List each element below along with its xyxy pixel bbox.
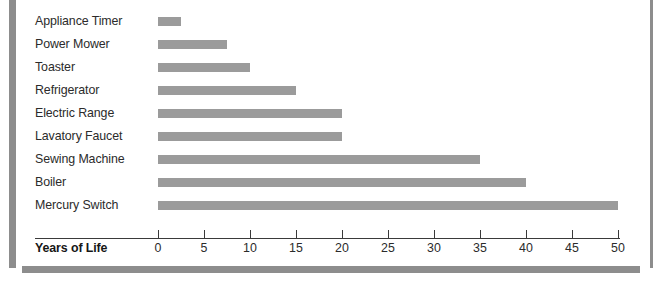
bar [158, 155, 480, 164]
bar-category-label: Electric Range [35, 103, 114, 126]
bar-chart-figure: Appliance TimerPower MowerToasterRefrige… [0, 0, 661, 281]
bar-category-label: Boiler [35, 172, 66, 195]
x-axis-line [35, 238, 620, 239]
bar [158, 132, 342, 141]
x-axis-tick-label: 45 [552, 241, 592, 255]
x-axis-tick-label: 0 [138, 241, 178, 255]
bar-row: Mercury Switch [0, 195, 661, 218]
bar-row: Boiler [0, 172, 661, 195]
bar-category-label: Toaster [35, 57, 75, 80]
x-axis-tick [572, 230, 573, 238]
x-axis-tick-label: 10 [230, 241, 270, 255]
bar [158, 86, 296, 95]
bottom-horizontal-rule [22, 266, 640, 273]
bar-category-label: Sewing Machine [35, 149, 125, 172]
x-axis-tick-label: 50 [598, 241, 638, 255]
bar-row: Refrigerator [0, 80, 661, 103]
x-axis-tick-label: 40 [506, 241, 546, 255]
bar-row: Sewing Machine [0, 149, 661, 172]
x-axis-tick [158, 230, 159, 238]
bar [158, 201, 618, 210]
x-axis-tick-label: 35 [460, 241, 500, 255]
x-axis-tick-label: 30 [414, 241, 454, 255]
plot-area: Appliance TimerPower MowerToasterRefrige… [0, 0, 661, 266]
x-axis-tick [434, 230, 435, 238]
x-axis-tick [618, 230, 619, 238]
x-axis-tick [526, 230, 527, 238]
x-axis-tick-label: 5 [184, 241, 224, 255]
x-axis-title: Years of Life [35, 241, 107, 255]
bar-category-label: Lavatory Faucet [35, 126, 122, 149]
bar-row: Toaster [0, 57, 661, 80]
x-axis-tick [480, 230, 481, 238]
bar-row: Lavatory Faucet [0, 126, 661, 149]
x-axis-tick [204, 230, 205, 238]
bar [158, 17, 181, 26]
x-axis-tick-label: 15 [276, 241, 316, 255]
bar-category-label: Refrigerator [35, 80, 99, 103]
bar-category-label: Mercury Switch [35, 195, 118, 218]
bar-category-label: Power Mower [35, 34, 110, 57]
x-axis-tick-label: 20 [322, 241, 362, 255]
bar-row: Appliance Timer [0, 11, 661, 34]
x-axis-tick [342, 230, 343, 238]
bar [158, 178, 526, 187]
x-axis-tick-label: 25 [368, 241, 408, 255]
bar-row: Power Mower [0, 34, 661, 57]
bar-category-label: Appliance Timer [35, 11, 122, 34]
bar-rows: Appliance TimerPower MowerToasterRefrige… [0, 11, 661, 218]
bar [158, 109, 342, 118]
x-axis-tick [250, 230, 251, 238]
x-axis-tick [388, 230, 389, 238]
bar [158, 63, 250, 72]
x-axis-tick [296, 230, 297, 238]
bar-row: Electric Range [0, 103, 661, 126]
bar [158, 40, 227, 49]
